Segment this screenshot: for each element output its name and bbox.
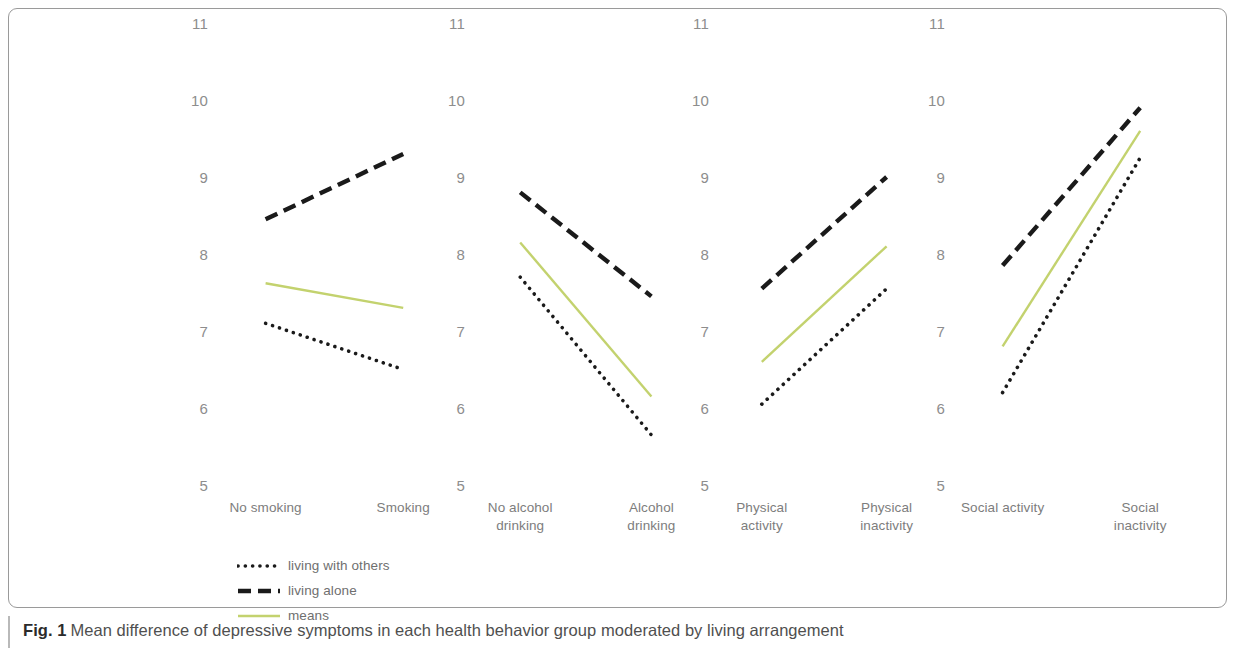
panel-plot-box: 111098765 [214,23,429,485]
y-axis-tick-9: 9 [700,169,709,186]
caption-label: Fig. 1 [23,621,66,639]
legend-swatch-dotted-icon [237,560,281,572]
panel-series-canvas [715,23,910,485]
panel-plot-box: 111098765 [951,23,1166,485]
chart-panel-alcohol-drinking: 111098765No alcohol drinkingAlcohol drin… [471,23,676,543]
y-axis-tick-5: 5 [936,477,945,494]
y-axis-tick-11: 11 [693,15,709,32]
figure-page: 111098765No smokingSmoking111098765No al… [0,0,1237,662]
series-line-living-alone [762,177,887,289]
caption-accent-rule [8,616,10,648]
series-line-living-alone [1003,108,1141,266]
x-axis-label-no-alcohol-drinking: No alcohol drinking [488,499,553,535]
y-axis-tick-5: 5 [456,477,465,494]
x-axis-label-no-smoking: No smoking [229,499,301,517]
y-axis-tick-11: 11 [192,15,208,32]
panel-series-canvas [214,23,429,485]
y-axis-tick-10: 10 [191,92,208,109]
caption-sentence: Mean difference of depressive symptoms i… [70,621,843,639]
y-axis-tick-5: 5 [199,477,208,494]
chart-plot-area: 111098765No smokingSmoking111098765No al… [9,9,1228,609]
y-axis-tick-10: 10 [928,92,945,109]
y-axis-tick-9: 9 [199,169,208,186]
legend-label: living alone [288,583,357,598]
chart-panel-smoking: 111098765No smokingSmoking [214,23,429,543]
panel-plot-box: 111098765 [715,23,910,485]
figure-frame: 111098765No smokingSmoking111098765No al… [8,8,1227,608]
legend-swatch-dashed-icon [237,585,281,597]
y-axis-tick-9: 9 [936,169,945,186]
series-line-living-alone [266,154,404,219]
x-axis-label-physical-activity: Physical activity [736,499,787,535]
chart-panel-social-activity: 111098765Social activitySocial inactivit… [951,23,1166,543]
legend-item-living-with-others: living with others [237,553,537,578]
series-line-living-with-others [762,289,887,405]
series-line-living-with-others [266,323,404,369]
y-axis-tick-10: 10 [448,92,465,109]
y-axis-tick-9: 9 [456,169,465,186]
y-axis-tick-7: 7 [936,323,945,340]
panel-plot-box: 111098765 [471,23,676,485]
legend-label: living with others [288,558,390,573]
panel-series-canvas [471,23,676,485]
chart-panel-physical-activity: 111098765Physical activityPhysical inact… [715,23,910,543]
y-axis-tick-11: 11 [449,15,465,32]
y-axis-tick-8: 8 [700,246,709,263]
y-axis-tick-11: 11 [929,15,945,32]
series-line-living-alone [520,192,651,296]
y-axis-tick-8: 8 [456,246,465,263]
series-line-means [520,242,651,396]
series-line-living-with-others [520,277,651,435]
y-axis-tick-8: 8 [199,246,208,263]
y-axis-tick-6: 6 [700,400,709,417]
legend-item-living-alone: living alone [237,578,537,603]
x-axis-label-social-activity: Social activity [961,499,1044,517]
x-axis-label-alcohol-drinking: Alcohol drinking [627,499,675,535]
panel-series-canvas [951,23,1166,485]
y-axis-tick-6: 6 [936,400,945,417]
figure-caption: Fig. 1Mean difference of depressive symp… [8,616,1227,654]
y-axis-tick-7: 7 [700,323,709,340]
series-line-living-with-others [1003,158,1141,393]
y-axis-tick-6: 6 [199,400,208,417]
series-line-means [266,283,404,308]
y-axis-tick-10: 10 [692,92,709,109]
x-axis-label-smoking: Smoking [377,499,430,517]
y-axis-tick-7: 7 [199,323,208,340]
series-line-means [1003,131,1141,347]
y-axis-tick-5: 5 [700,477,709,494]
x-axis-label-social-inactivity: Social inactivity [1114,499,1167,535]
y-axis-tick-8: 8 [936,246,945,263]
y-axis-tick-6: 6 [456,400,465,417]
caption-body: Fig. 1Mean difference of depressive symp… [23,616,844,641]
x-axis-label-physical-inactivity: Physical inactivity [860,499,913,535]
y-axis-tick-7: 7 [456,323,465,340]
